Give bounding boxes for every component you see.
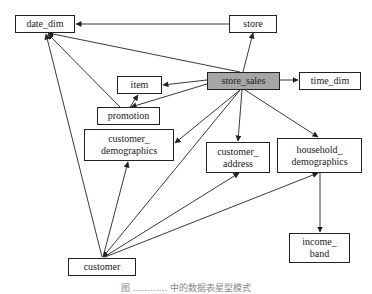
node-label: item: [131, 79, 149, 91]
node-item: item: [117, 76, 162, 94]
node-label: time_dim: [311, 75, 349, 87]
node-time-dim: time_dim: [299, 72, 361, 90]
node-label: customer_demographics: [101, 133, 157, 157]
edge-store_sales-to-date_dim: [48, 33, 240, 72]
node-label: date_dim: [26, 18, 63, 30]
node-label: customer: [84, 261, 121, 273]
node-household-demographics: household_demographics: [277, 138, 362, 173]
node-label: household_demographics: [291, 144, 347, 168]
edge-customer-to-customer_address: [104, 173, 239, 257]
node-label: income_band: [302, 236, 336, 260]
edge-customer-to-customer_demographics: [103, 162, 128, 257]
edge-promotion-to-date_dim: [48, 34, 120, 107]
node-customer-demographics: customer_demographics: [84, 129, 174, 161]
node-store: store: [229, 15, 277, 33]
node-customer-address: customer_address: [206, 142, 270, 173]
figure-caption: 图 ............ 中的数据表星型模式: [0, 281, 372, 294]
edge-store_sales-to-customer_demographics: [175, 90, 240, 143]
node-income-band: income_band: [289, 233, 350, 263]
edge-store_sales-to-item: [163, 80, 207, 85]
node-customer: customer: [68, 258, 136, 276]
edge-store_sales-to-customer_address: [238, 90, 242, 141]
node-promotion: promotion: [97, 107, 160, 125]
node-label: promotion: [108, 110, 150, 122]
edge-store_sales-to-household_demographics: [245, 90, 318, 137]
node-store-sales: store_sales: [207, 72, 280, 90]
node-label: store: [243, 18, 262, 30]
edge-store_sales-to-store: [243, 33, 253, 72]
node-date-dim: date_dim: [15, 15, 75, 33]
node-label: customer_address: [217, 146, 259, 170]
node-label: store_sales: [222, 75, 266, 87]
